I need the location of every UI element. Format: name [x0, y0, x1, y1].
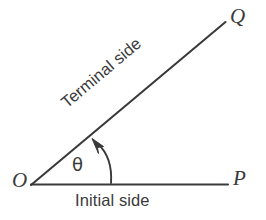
- initial-side-label: Initial side: [75, 192, 150, 209]
- point-label-q: Q: [230, 6, 245, 27]
- angle-arrowhead-icon: [92, 139, 104, 154]
- diagram-canvas: [0, 0, 266, 220]
- angle-arc: [98, 144, 112, 184]
- angle-diagram: O P Q θ Initial side Terminal side: [0, 0, 266, 220]
- point-label-p: P: [233, 168, 246, 189]
- vertex-label-o: O: [12, 170, 27, 191]
- angle-theta-label: θ: [72, 156, 83, 174]
